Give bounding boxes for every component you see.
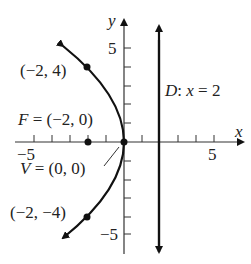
- vertex-marker: [121, 139, 128, 146]
- x-tick-5: 5: [208, 146, 217, 163]
- directrix-label: D: x = 2: [165, 82, 220, 99]
- y-tick-neg5: −5: [100, 226, 118, 243]
- y-tick-5: 5: [108, 40, 117, 57]
- point-bottom-marker: [84, 214, 91, 221]
- x-axis-label: x: [235, 123, 243, 140]
- parabola-graph: [0, 0, 251, 264]
- vertex-leader: [104, 147, 119, 166]
- point-top-marker: [84, 64, 91, 71]
- focus-marker: [85, 139, 92, 146]
- y-axis-label: y: [108, 12, 116, 29]
- vertex-label: V = (0, 0): [20, 160, 85, 177]
- focus-label: F = (−2, 0): [18, 111, 93, 128]
- point-top-label: (−2, 4): [20, 62, 66, 79]
- point-bottom-label: (−2, −4): [10, 204, 66, 221]
